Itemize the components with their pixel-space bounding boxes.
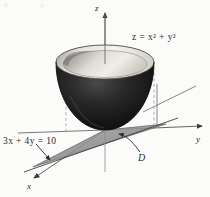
boundary-line-equation-label: 3x + 4y = 10	[3, 136, 57, 146]
axis-z-label: z	[95, 3, 99, 13]
figure-container: z = x² + y² 3x + 4y = 10 z y x D	[0, 0, 210, 197]
axis-x-label: x	[27, 181, 31, 191]
region-d-label: D	[138, 152, 146, 163]
surface-equation-label: z = x² + y²	[132, 32, 176, 42]
axis-y-label: y	[196, 134, 200, 144]
paraboloid-figure-svg	[0, 0, 210, 197]
